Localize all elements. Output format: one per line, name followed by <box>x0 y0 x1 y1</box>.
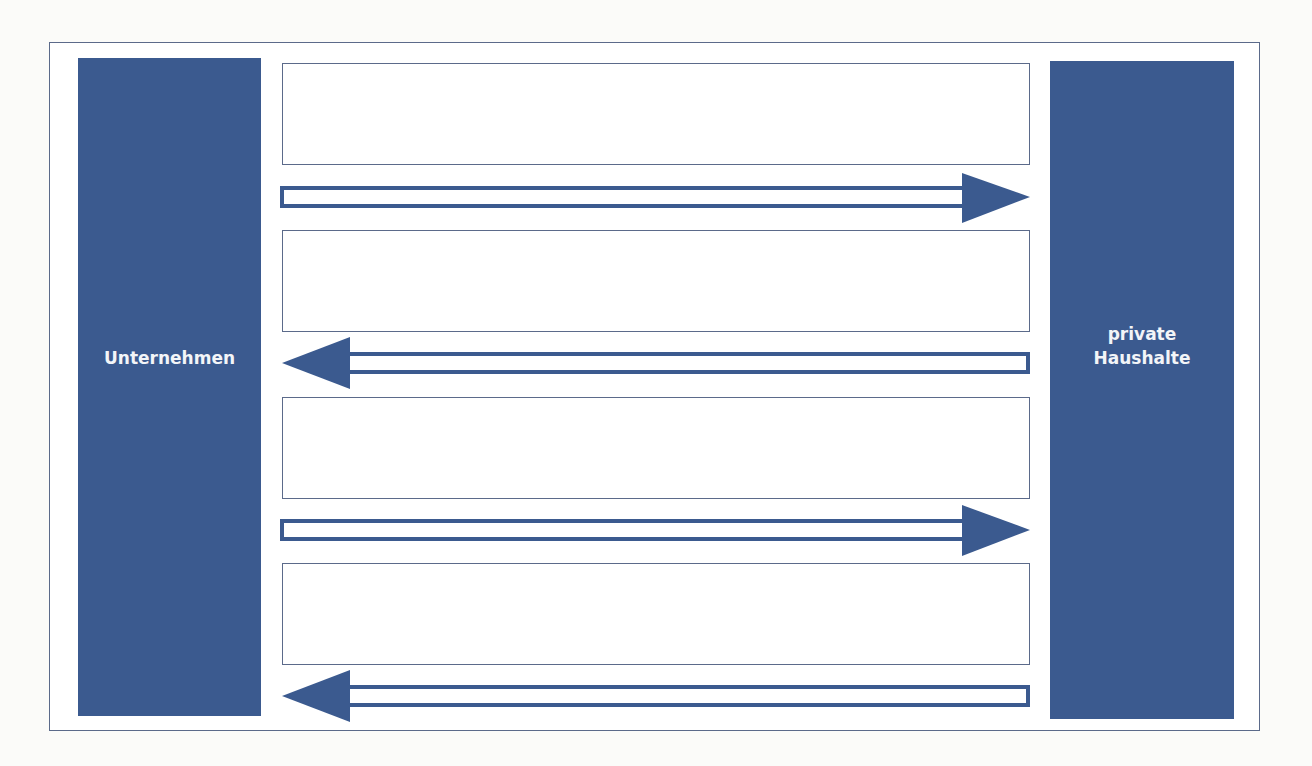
sector-label-private-haushalte: private Haushalte <box>1094 322 1191 370</box>
arrow-right-icon <box>280 503 1032 559</box>
flow-label-box-2[interactable] <box>282 230 1030 332</box>
sector-label-unternehmen: Unternehmen <box>104 346 235 370</box>
flow-label-box-4[interactable] <box>282 563 1030 665</box>
diagram-canvas: Unternehmen private Haushalte <box>0 0 1312 766</box>
flow-arrow-left-2 <box>280 669 1032 725</box>
arrow-right-icon <box>280 170 1032 226</box>
flow-label-box-1[interactable] <box>282 63 1030 165</box>
sector-private-haushalte: private Haushalte <box>1050 61 1234 719</box>
flow-arrow-right-1 <box>280 170 1032 226</box>
flow-arrow-right-2 <box>280 503 1032 559</box>
flow-label-box-3[interactable] <box>282 397 1030 499</box>
arrow-left-icon <box>280 669 1032 725</box>
sector-unternehmen: Unternehmen <box>78 58 261 716</box>
arrow-left-icon <box>280 336 1032 392</box>
flow-arrow-left-1 <box>280 336 1032 392</box>
